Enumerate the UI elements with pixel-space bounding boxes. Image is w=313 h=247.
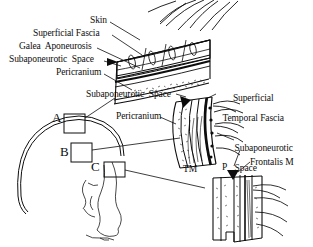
callout-label-b: B <box>60 145 69 159</box>
callout-box-b[interactable] <box>71 143 92 162</box>
hair-shafts-icon <box>148 0 238 31</box>
subaponeurotic-arrow-middle <box>180 96 191 108</box>
label-subaponeurotic-space-top: Subaponeurotic Space <box>9 55 94 65</box>
panel-c-stipple <box>216 185 259 229</box>
label-subaponeurotic-space-right-line1: Subaponeurotic <box>235 143 293 153</box>
label-subaponeurotic-space-middle: Subaponeurotic Space <box>86 90 171 100</box>
skull-profile-outline <box>18 116 124 214</box>
label-tm: TM <box>183 165 197 175</box>
callout-label-c: C <box>91 160 100 174</box>
leader-lines-top <box>97 22 142 90</box>
panel-c-projections <box>253 185 288 236</box>
frontalis-cross-section-panel-c <box>213 175 288 242</box>
label-superficial-fascia: Superficial Fascia <box>33 29 100 39</box>
label-pericranium-middle: Pericranium <box>116 112 161 122</box>
frontalis-muscle-fibers <box>247 180 251 238</box>
label-superficial-temporal-fascia-line2: Temporal Fascia <box>222 113 283 123</box>
label-skin: Skin <box>90 16 107 26</box>
label-superficial-temporal-fascia: Superficial Temporal Fascia <box>218 84 284 124</box>
label-pericranium-top: Pericranium <box>56 68 101 78</box>
label-frontalis-muscle: Frontalis M <box>250 158 294 168</box>
face-ear-sketch <box>82 162 121 240</box>
label-p: P <box>222 163 227 173</box>
label-galea-aponeurosis: Galea Aponeurosis <box>19 42 92 52</box>
callout-label-a: A <box>52 111 61 125</box>
label-superficial-temporal-fascia-line1: Superficial <box>233 93 274 103</box>
